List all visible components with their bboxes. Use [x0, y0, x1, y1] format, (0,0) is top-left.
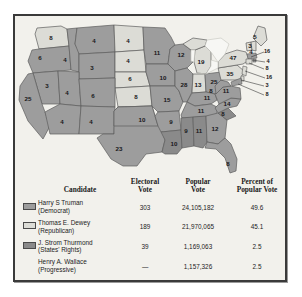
candidate-party: (Progressive): [38, 266, 123, 274]
ev-callout-label-MA: 16: [264, 48, 270, 54]
ev-label-WA: 8: [49, 34, 53, 41]
ev-label-TN: 11: [198, 107, 205, 114]
ev-label-MS: 9: [184, 127, 188, 134]
electoral-vote-cell: —: [123, 256, 167, 276]
legend-swatch-cell: [15, 217, 37, 237]
ev-callout-label-NJ: 16: [266, 74, 272, 80]
ev-label-WY: 3: [90, 64, 94, 71]
state-NE[interactable]: [115, 72, 150, 88]
popular-vote-cell: 21,970,065: [167, 217, 229, 237]
ev-label-SD: 4: [126, 57, 130, 64]
table-row: J. Strom Thurmond(States' Rights)391,169…: [15, 237, 285, 257]
results-table-body: Harry S Truman(Democrat)30324,105,18249.…: [15, 197, 285, 276]
percent-cell: 2.5: [229, 237, 285, 257]
ev-label-KS: 8: [134, 93, 138, 100]
ev-label-LA: 10: [171, 140, 178, 147]
results-table-container: Candidate Electoral Vote Popular Vote Pe…: [15, 178, 285, 282]
header-electoral-vote: Electoral Vote: [123, 178, 167, 197]
ev-label-MO: 15: [164, 96, 171, 103]
ev-callout-label-CT: 8: [265, 65, 268, 71]
table-row: Harry S Truman(Democrat)30324,105,18249.…: [15, 197, 285, 217]
percent-cell: 45.1: [229, 217, 285, 237]
table-header-row: Candidate Electoral Vote Popular Vote Pe…: [15, 178, 285, 197]
ev-label-OK: 10: [139, 116, 146, 123]
candidate-cell: Harry S Truman(Democrat): [37, 197, 123, 217]
ev-label-AR: 9: [169, 118, 173, 125]
header-popular-vote-l2: Vote: [191, 185, 205, 194]
ev-label-IN: 13: [195, 81, 202, 88]
ev-callout-label-MD: 8: [265, 91, 268, 97]
election-map-figure: 8644344682534644231011101591012281913251…: [13, 14, 287, 282]
candidate-party: (States' Rights): [38, 246, 123, 254]
candidate-name: Harry S Truman: [38, 199, 83, 206]
state-NM[interactable]: [79, 106, 115, 134]
swatch-truman: [23, 203, 36, 210]
table-row: Henry A. Wallace(Progressive)—1,157,3262…: [15, 256, 285, 276]
map-svg: 8644344682534644231011101591012281913251…: [15, 16, 285, 178]
state-UT[interactable]: [58, 71, 81, 106]
ev-label-ID: 4: [63, 56, 67, 63]
state-CO[interactable]: [79, 78, 115, 107]
ev-label-OR: 6: [38, 54, 42, 61]
table-row: Thomas E. Dewey(Republican)18921,970,065…: [15, 217, 285, 237]
ev-label-CO: 6: [91, 92, 95, 99]
results-table: Candidate Electoral Vote Popular Vote Pe…: [15, 178, 285, 276]
state-FL[interactable]: [205, 138, 237, 173]
ev-label-OH: 25: [211, 78, 218, 85]
popular-vote-cell: 24,105,182: [167, 197, 229, 217]
ev-label-AL: 11: [196, 127, 203, 134]
ev-label-MN: 11: [154, 49, 161, 56]
header-percent-l2: Popular Vote: [237, 185, 278, 194]
ev-label-NY: 47: [230, 54, 237, 61]
us-electoral-map: 8644344682534644231011101591012281913251…: [15, 16, 285, 178]
ev-label-NC: 14: [224, 100, 231, 107]
ev-label-CA: 25: [25, 95, 32, 102]
ev-label-NE: 6: [128, 75, 132, 82]
swatch-thurmond: [23, 242, 36, 249]
popular-vote-cell: 1,169,063: [167, 237, 229, 257]
state-NJ[interactable]: [242, 66, 247, 76]
ev-label-IA: 10: [160, 74, 167, 81]
percent-cell: 49.6: [229, 197, 285, 217]
callout-ev-labels: 16481638: [264, 48, 272, 97]
ev-label-IL: 28: [181, 81, 188, 88]
ev-label-ND: 4: [126, 37, 130, 44]
ev-label-WV: 8: [209, 87, 213, 94]
header-electoral-vote-l2: Vote: [138, 185, 152, 194]
candidate-cell: Henry A. Wallace(Progressive): [37, 256, 123, 276]
ev-label-SC: 8: [221, 110, 225, 117]
state-WY[interactable]: [79, 52, 115, 79]
candidate-cell: Thomas E. Dewey(Republican): [37, 217, 123, 237]
legend-swatch-cell: [15, 256, 37, 276]
ev-label-WI: 12: [178, 51, 185, 58]
header-candidate: Candidate: [37, 178, 123, 197]
ev-label-AZ: 4: [60, 118, 64, 125]
candidate-name: J. Strom Thurmond: [38, 239, 93, 246]
ev-label-FL: 8: [226, 160, 230, 167]
electoral-vote-cell: 189: [123, 217, 167, 237]
ev-label-KY: 11: [204, 94, 211, 101]
header-swatch-spacer: [15, 178, 37, 197]
ev-label-TX: 23: [116, 145, 123, 152]
ev-label-NM: 4: [89, 118, 93, 125]
percent-cell: 2.5: [229, 256, 285, 276]
candidate-party: (Democrat): [38, 207, 123, 215]
ev-label-UT: 4: [65, 89, 69, 96]
popular-vote-cell: 1,157,326: [167, 256, 229, 276]
electoral-vote-cell: 39: [123, 237, 167, 257]
ev-label-NV: 3: [45, 82, 49, 89]
candidate-cell: J. Strom Thurmond(States' Rights): [37, 237, 123, 257]
ev-callout-label-DE: 3: [265, 82, 268, 88]
header-percent: Percent of Popular Vote: [229, 178, 285, 197]
ev-callout-label-RI: 4: [266, 58, 270, 64]
state-SD[interactable]: [115, 50, 146, 72]
legend-swatch-cell: [15, 237, 37, 257]
state-OK[interactable]: [114, 106, 158, 126]
header-popular-vote: Popular Vote: [167, 178, 229, 197]
ev-label-NH: 4: [249, 48, 253, 55]
candidate-name: Thomas E. Dewey: [38, 219, 90, 226]
ev-label-MT: 4: [92, 37, 96, 44]
candidate-name: Henry A. Wallace: [38, 258, 87, 265]
ev-label-MI: 19: [198, 58, 205, 65]
swatch-dewey: [23, 222, 36, 229]
